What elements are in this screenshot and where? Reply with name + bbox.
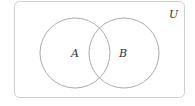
set-a-label: A [70, 47, 79, 60]
universe-label: U [169, 8, 179, 21]
set-b-label: B [118, 47, 127, 60]
venn-diagram: U A B [0, 0, 195, 106]
